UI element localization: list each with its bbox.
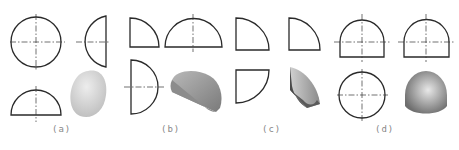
panel-b	[124, 14, 222, 114]
panel-label-c: (c)	[262, 124, 281, 134]
semicircle-view-b	[165, 14, 222, 52]
quarter-view-c-2	[289, 18, 320, 50]
quarter-view-c-1	[236, 18, 269, 50]
shaded-quarter-c	[290, 67, 320, 108]
circle-view-a	[10, 14, 65, 70]
shaded-half-disc-b	[171, 71, 222, 112]
panel-label-a: (a)	[52, 124, 71, 134]
shaded-hemisphere-a	[70, 70, 106, 117]
dome-view-d-2	[398, 14, 455, 62]
panel-d	[334, 14, 455, 122]
top-semicircle-a	[11, 86, 61, 122]
panel-c	[236, 18, 320, 108]
circle-view-d	[337, 69, 388, 122]
panel-label-b: (b)	[161, 124, 180, 134]
shaded-dome-d	[405, 71, 447, 114]
panel-label-d: (d)	[375, 124, 394, 134]
quarter-view-b	[130, 18, 159, 47]
dome-view-d-1	[334, 14, 390, 62]
panel-a	[10, 14, 110, 122]
side-semicircle-a	[76, 16, 110, 67]
quarter-view-c-3	[236, 70, 269, 103]
side-semicircle-b	[124, 60, 164, 114]
